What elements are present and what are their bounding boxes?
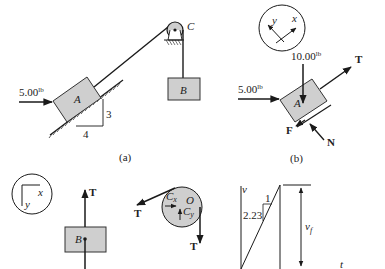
y-axis-label-b: y xyxy=(271,14,277,26)
normal-arrow xyxy=(310,124,324,140)
friction-label: F xyxy=(286,124,293,136)
fbd-applied-force-label: 5.00lb xyxy=(238,83,263,95)
axes-circle-b xyxy=(259,5,305,51)
panel-e: v 1 2.23 vf t xyxy=(241,183,344,269)
slope-rise-label-e: 2.23 xyxy=(243,209,263,221)
slope-rise-label: 3 xyxy=(106,108,112,120)
x-axis-label-c: x xyxy=(37,186,43,198)
weight-label: 10.00lb xyxy=(291,50,322,62)
axes-circle-c xyxy=(12,174,52,214)
fbd-block-a-label: A xyxy=(293,97,301,109)
y-axis-label-c: y xyxy=(24,198,30,210)
panel-d: T T Cx O Cy xyxy=(134,187,202,252)
slope-run-label: 4 xyxy=(83,128,89,140)
panel-a: 3 4 A 5.00lb C B (a) xyxy=(19,20,200,164)
y-axis-arrow-b xyxy=(268,25,284,42)
tension-label-c: T xyxy=(89,186,97,198)
applied-force-label: 5.00lb xyxy=(19,86,44,98)
tension-left-label: T xyxy=(134,207,142,219)
normal-label: N xyxy=(327,136,335,148)
tension-label-b: T xyxy=(355,53,363,65)
tension-arrow-b xyxy=(320,67,351,89)
rope-a-to-pulley xyxy=(94,27,168,87)
velocity-line xyxy=(241,185,280,269)
panel-b: y x A 10.00lb T 5.00lb F N (b) xyxy=(238,5,363,165)
pulley-c-label: C xyxy=(187,20,195,32)
caption-a: (a) xyxy=(119,151,132,164)
caption-b: (b) xyxy=(290,152,303,165)
slope-run-label-e: 1 xyxy=(265,192,271,204)
block-a-label: A xyxy=(73,93,81,105)
panel-c: x y B T xyxy=(12,174,106,269)
x-axis-arrow-b xyxy=(276,28,296,43)
pulley-c xyxy=(164,22,184,45)
diagram-canvas: 3 4 A 5.00lb C B (a) xyxy=(0,0,385,269)
v-axis-label: v xyxy=(242,183,247,195)
block-b-label: B xyxy=(180,84,187,96)
x-axis-label-b: x xyxy=(291,12,297,24)
final-velocity-label: vf xyxy=(305,220,314,235)
fbd-block-b-label: B xyxy=(75,233,82,245)
t-axis-label: t xyxy=(340,258,344,269)
tension-down-label: T xyxy=(190,240,198,252)
